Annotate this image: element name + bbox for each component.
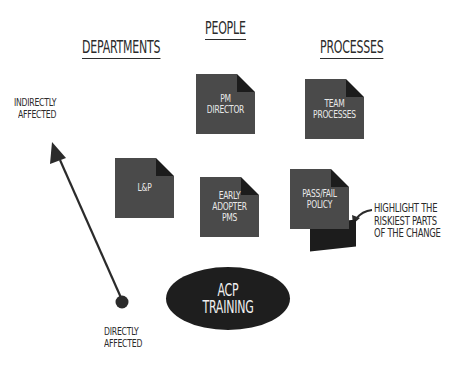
doc-early-adopter-pms: EARLY ADOPTER PMS <box>200 177 259 237</box>
arrow-base-dot-icon <box>116 296 129 309</box>
doc-pass-fail-policy: PASS/FAIL POLICY <box>290 169 349 229</box>
doc-pm-director: PM DIRECTOR <box>196 74 255 134</box>
page-fold-icon <box>331 169 349 187</box>
label-indirectly-affected: INDIRECTLY AFFECTED <box>14 97 68 120</box>
label-directly-affected: DIRECTLY AFFECTED <box>104 326 153 349</box>
acp-training-ellipse: ACP TRAINING <box>166 267 290 330</box>
arrow-head-icon <box>50 142 66 164</box>
page-fold-icon <box>346 79 364 97</box>
doc-team-processes: TEAM PROCESSES <box>305 79 364 139</box>
page-fold-icon <box>156 158 174 176</box>
annotation-highlight-risk: HIGHLIGHT THE RISKIEST PARTS OF THE CHAN… <box>374 202 456 240</box>
doc-l-and-p: L&P <box>115 158 174 218</box>
page-fold-icon <box>237 74 255 92</box>
